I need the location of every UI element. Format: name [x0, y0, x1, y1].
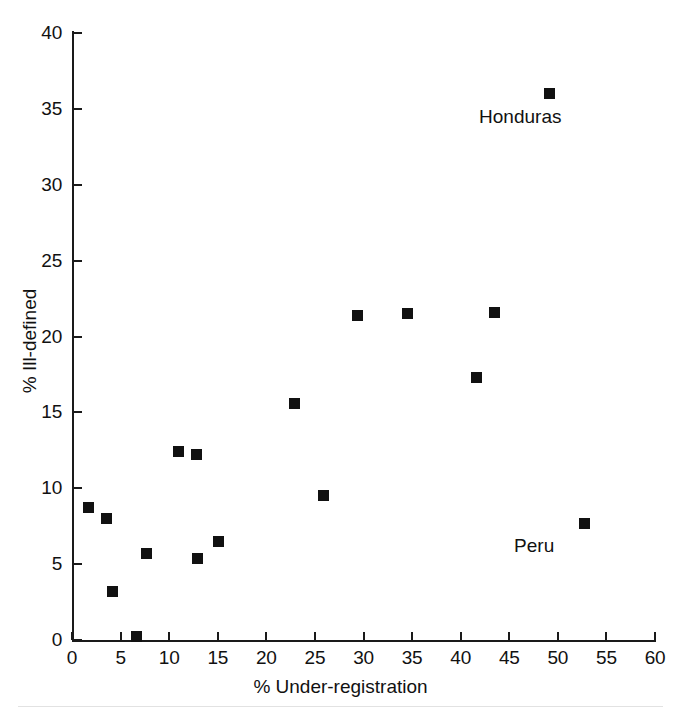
data-point	[213, 536, 224, 547]
data-point	[289, 398, 300, 409]
x-tick-label: 20	[246, 648, 286, 667]
x-tick-label: 40	[441, 648, 481, 667]
data-point	[83, 502, 94, 513]
x-tick-mark	[557, 632, 559, 640]
y-tick-mark	[74, 411, 82, 413]
y-tick-mark	[74, 108, 82, 110]
x-tick-label: 10	[149, 648, 189, 667]
data-point	[192, 553, 203, 564]
y-tick-mark	[74, 184, 82, 186]
data-point	[173, 446, 184, 457]
data-point	[471, 372, 482, 383]
y-tick-label: 30	[24, 175, 62, 194]
y-axis-title: % Ill-defined	[19, 231, 41, 451]
data-point	[191, 449, 202, 460]
plot-area: 0510152025303540 05101520253035404550556…	[0, 0, 681, 713]
data-point	[579, 518, 590, 529]
x-tick-mark	[411, 632, 413, 640]
data-point	[131, 631, 142, 642]
x-axis-title: % Under-registration	[0, 676, 681, 698]
data-point	[544, 88, 555, 99]
data-point	[101, 513, 112, 524]
x-tick-label: 35	[392, 648, 432, 667]
data-point	[402, 308, 413, 319]
x-tick-mark	[71, 632, 73, 640]
y-tick-mark	[74, 563, 82, 565]
x-tick-label: 5	[101, 648, 141, 667]
point-label-peru: Peru	[514, 535, 554, 557]
x-tick-mark	[120, 632, 122, 640]
y-tick-mark	[74, 336, 82, 338]
y-tick-label: 5	[24, 554, 62, 573]
scan-artifact-line	[18, 706, 663, 707]
x-tick-mark	[460, 632, 462, 640]
y-tick-mark	[74, 32, 82, 34]
data-point	[141, 548, 152, 559]
x-tick-label: 30	[344, 648, 384, 667]
data-point	[318, 490, 329, 501]
data-point	[489, 307, 500, 318]
y-tick-label: 0	[24, 630, 62, 649]
y-tick-mark	[74, 639, 82, 641]
x-tick-mark	[168, 632, 170, 640]
x-tick-label: 50	[538, 648, 578, 667]
x-tick-label: 25	[295, 648, 335, 667]
x-tick-label: 0	[52, 648, 92, 667]
x-tick-mark	[217, 632, 219, 640]
y-tick-label: 10	[24, 478, 62, 497]
x-tick-mark	[314, 632, 316, 640]
x-tick-mark	[654, 632, 656, 640]
x-tick-mark	[508, 632, 510, 640]
y-tick-label: 40	[24, 23, 62, 42]
x-tick-label: 60	[635, 648, 675, 667]
scatter-plot-figure: 0510152025303540 05101520253035404550556…	[0, 0, 681, 713]
x-axis-line	[72, 640, 656, 642]
x-tick-mark	[605, 632, 607, 640]
data-point	[107, 586, 118, 597]
point-label-honduras: Honduras	[479, 106, 561, 128]
x-tick-label: 45	[489, 648, 529, 667]
x-tick-mark	[265, 632, 267, 640]
x-tick-label: 55	[586, 648, 626, 667]
data-point	[352, 310, 363, 321]
x-tick-mark	[363, 632, 365, 640]
y-tick-mark	[74, 487, 82, 489]
y-tick-label: 35	[24, 99, 62, 118]
y-tick-mark	[74, 260, 82, 262]
x-tick-label: 15	[198, 648, 238, 667]
